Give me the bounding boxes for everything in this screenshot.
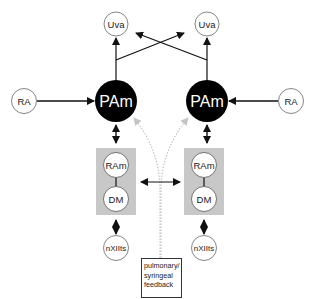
node-uva-left: Uva: [104, 12, 128, 36]
svg-text:Uva: Uva: [108, 19, 126, 30]
node-ra-left: RA: [12, 89, 37, 114]
svg-text:nXIIts: nXIIts: [194, 244, 214, 253]
svg-text:RAm: RAm: [193, 160, 214, 171]
node-ram-left: RAm: [104, 153, 129, 178]
svg-text:PAm: PAm: [190, 93, 223, 110]
svg-text:RA: RA: [284, 96, 298, 107]
edge-pam-left-uva-right: [116, 33, 184, 60]
node-nxiits-right: nXIIts: [192, 236, 217, 261]
svg-text:DM: DM: [109, 194, 124, 205]
node-nxiits-left: nXIIts: [104, 236, 129, 261]
node-ra-right: RA: [279, 89, 304, 114]
node-pam-right: PAm: [186, 80, 228, 122]
svg-text:RAm: RAm: [105, 160, 126, 171]
feedback-arrow-left: [134, 118, 160, 258]
edge-pam-right-uva-left: [136, 33, 207, 60]
svg-text:Uva: Uva: [199, 19, 217, 30]
svg-text:RA: RA: [17, 96, 31, 107]
feedback-line-3: feedback: [144, 280, 180, 290]
feedback-box: pulmonary/ syringeal feedback: [141, 258, 182, 298]
svg-text:DM: DM: [197, 194, 212, 205]
feedback-line-2: syringeal: [144, 271, 180, 281]
svg-text:nXIIts: nXIIts: [106, 244, 126, 253]
node-pam-left: PAm: [95, 80, 137, 122]
feedback-arrow-right: [161, 118, 188, 258]
node-dm-left: DM: [104, 187, 129, 212]
feedback-line-1: pulmonary/: [144, 261, 180, 271]
node-dm-right: DM: [192, 187, 217, 212]
svg-text:PAm: PAm: [99, 93, 132, 110]
node-ram-right: RAm: [192, 153, 217, 178]
node-uva-right: Uva: [195, 12, 219, 36]
diagram-canvas: Uva Uva RA RA PAm PAm RAm DM RAm DM: [0, 0, 315, 299]
